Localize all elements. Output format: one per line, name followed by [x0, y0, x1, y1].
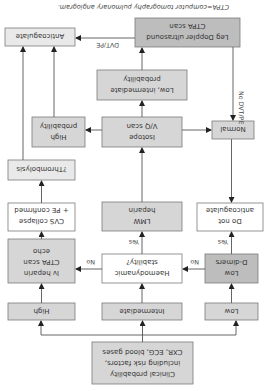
- node-text: Normal: [220, 125, 245, 133]
- node-text: stability?: [126, 258, 158, 266]
- node-text: echo: [33, 247, 50, 255]
- node-lmw-heparin: LMW heparin: [102, 202, 182, 231]
- node-text: High: [33, 307, 49, 315]
- edge-label-no-dvt-pe: No DVT/PE: [238, 91, 245, 124]
- node-text: D-dimers: [215, 258, 247, 266]
- node-text: Low, intermediate: [110, 86, 173, 94]
- edge-label-haemo-no: No: [86, 259, 95, 266]
- node-text: Clinical probability: [110, 370, 175, 378]
- node-text: CVS collapse: [19, 217, 64, 225]
- caption: CTPA=computer tomography pulmonary angio…: [58, 3, 229, 11]
- node-high: High: [8, 303, 75, 320]
- node-text: probability: [40, 122, 77, 130]
- node-high-probability: High probability: [32, 117, 85, 147]
- node-text: Anticoagulate: [16, 32, 65, 40]
- node-thrombolysis: ?Thrombolysis: [8, 160, 75, 180]
- node-text: including risk factors,: [105, 359, 180, 367]
- node-text: LMW: [133, 217, 150, 225]
- node-low-d-dimers: Low D-dimers: [205, 254, 258, 283]
- node-anticoagulate: Anticoagulate: [5, 28, 75, 46]
- node-leg-doppler: Leg Doppler ultrasound CTPA scan: [135, 18, 240, 47]
- node-low: Low: [205, 303, 258, 320]
- node-clinical-probability: Clinical probability including risk fact…: [92, 342, 193, 384]
- node-normal: Normal: [212, 121, 254, 139]
- node-text: heparin: [129, 206, 156, 214]
- flowchart-stage: CTPA=computer tomography pulmonary angio…: [0, 0, 269, 391]
- edge-label-dvt-pe: DVT/PE: [96, 42, 119, 49]
- node-text: Leg Doppler ultrasound: [146, 33, 228, 41]
- node-text: Isotope: [129, 133, 155, 141]
- node-text: CXR, ECG, blood gases: [102, 348, 182, 356]
- node-haemodynamic-stability: Haemodynamic stability?: [102, 254, 182, 283]
- node-text: CTPA scan: [23, 258, 59, 266]
- node-text: Iv heparin: [24, 269, 59, 277]
- node-text: Do not: [218, 217, 242, 225]
- edge-label-ddimer-no: No: [190, 259, 199, 266]
- node-text: Haemodynamic: [114, 269, 169, 277]
- node-cvs-collapse: CVS collapse + PE confirmed: [8, 203, 75, 231]
- node-text: Low: [224, 307, 238, 315]
- node-text: + PE confirmed: [14, 206, 68, 214]
- node-text: probability: [123, 75, 160, 83]
- node-text: ?Thrombolysis: [16, 165, 67, 173]
- node-isotope-vq-scan: Isotope V/Q scan: [102, 117, 182, 147]
- edge-label-ddimer-yes: Yes: [218, 239, 229, 246]
- node-low-intermediate-probability: Low, intermediate probability: [97, 70, 187, 100]
- edge-label-haemo-yes: Yes: [129, 239, 140, 246]
- node-text: CTPA scan: [169, 22, 205, 30]
- node-text: anticoagulate: [206, 206, 254, 214]
- node-text: V/Q scan: [126, 122, 157, 130]
- node-iv-heparin: Iv heparin CTPA scan echo: [8, 239, 75, 283]
- node-intermediate: Intermediate: [102, 303, 182, 320]
- node-text: High: [50, 133, 66, 141]
- node-do-not-anticoagulate: Do not anticoagulate: [197, 203, 263, 231]
- node-text: Intermediate: [119, 307, 164, 315]
- pe-management-flowchart: CTPA=computer tomography pulmonary angio…: [0, 0, 269, 391]
- node-text: Low: [224, 269, 238, 277]
